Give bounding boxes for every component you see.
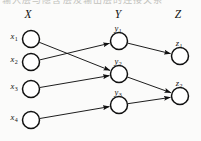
edges-group (39, 42, 170, 118)
graph-node-y3 (111, 97, 128, 114)
node-label-subscript: 1 (119, 28, 122, 34)
graph-node-y1 (111, 33, 128, 50)
node-label-base: z (176, 78, 179, 88)
node-label-y1: y1 (115, 23, 122, 33)
graph-edge (128, 43, 171, 54)
node-label-subscript: 3 (119, 92, 122, 98)
graph-node-x3 (23, 81, 40, 98)
graph-node-z1 (172, 48, 189, 65)
graph-edge (40, 43, 110, 60)
node-label-subscript: 1 (15, 36, 18, 42)
graph-edge (39, 42, 110, 70)
graph-canvas (0, 0, 201, 141)
node-label-subscript: 4 (15, 117, 18, 123)
layer-header-y: Y (115, 8, 121, 20)
node-label-base: z (176, 38, 179, 48)
node-label-z2: z2 (176, 78, 182, 88)
graph-node-x2 (23, 54, 40, 71)
node-label-subscript: 2 (119, 61, 122, 67)
graph-node-x1 (23, 31, 40, 48)
node-label-x1: x1 (11, 31, 18, 41)
layer-header-z: Z (175, 8, 181, 20)
node-label-subscript: 3 (15, 86, 18, 92)
node-label-y3: y3 (115, 87, 122, 97)
graph-node-x4 (23, 112, 40, 129)
graph-node-z2 (172, 88, 189, 105)
layer-header-x: X (24, 8, 31, 20)
node-label-x4: x4 (11, 112, 18, 122)
graph-edge (128, 77, 171, 93)
node-label-subscript: 2 (15, 59, 18, 65)
layered-graph-figure: 输入层与隐含层及输出层的连接关系 XYZ x1x2x3x4y1y2y3z1z2 (0, 0, 201, 141)
node-label-z1: z1 (176, 38, 182, 48)
graph-edge (40, 76, 109, 88)
node-label-x2: x2 (11, 54, 18, 64)
node-label-subscript: 2 (179, 83, 182, 89)
node-label-subscript: 1 (179, 43, 182, 49)
graph-edge (40, 107, 109, 119)
node-label-y2: y2 (115, 56, 122, 66)
graph-edge (128, 97, 170, 103)
node-label-x3: x3 (11, 81, 18, 91)
graph-node-y2 (111, 66, 128, 83)
